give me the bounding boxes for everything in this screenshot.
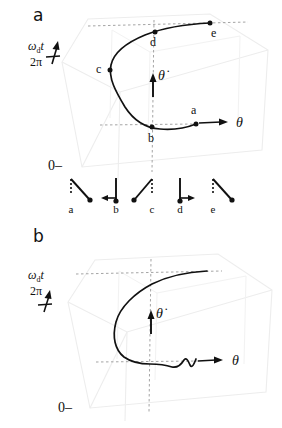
data-point-d (153, 30, 158, 35)
gridline-top-horizontal (88, 22, 248, 26)
theta-axis-arrow-a (199, 119, 228, 126)
thetadot-axis-label-a: θ̇ (158, 68, 169, 83)
point-label-a: a (191, 104, 196, 116)
point-label-b: b (148, 132, 154, 144)
figure-root: a ωdt 2π 0– (0, 0, 282, 428)
theta-axis-label-a: θ (236, 115, 243, 130)
panel-b-graphics: θ θ̇ (0, 214, 282, 428)
point-label-d: d (150, 36, 156, 48)
thetadot-axis-arrow-b (148, 310, 155, 334)
time-axis-arrow-b (38, 290, 52, 312)
panel-a-box-outline (62, 14, 268, 180)
data-point-c (108, 68, 113, 73)
pendulum-icon-d (177, 178, 195, 204)
point-label-c: c (96, 63, 101, 75)
theta-axis-arrow-b (198, 357, 223, 364)
thetadot-axis-arrow-a (150, 73, 157, 97)
gridline-mid-horizontal-b (96, 361, 200, 362)
point-label-e: e (211, 27, 216, 39)
pendulum-icon-e (213, 179, 235, 203)
pendulum-icon-row: a b c d e (0, 174, 282, 214)
pendulum-icons-graphics (0, 174, 282, 214)
panel-b-gridlines (76, 259, 222, 412)
gridline-vertical-b (149, 259, 151, 412)
time-axis-arrow-a (46, 41, 60, 64)
pendulum-icon-b (101, 178, 119, 204)
data-point-a (194, 122, 199, 127)
panel-b: b ωdt 2π 0– (0, 214, 282, 428)
panel-b-box-outline (68, 254, 272, 421)
pendulum-icon-a (71, 179, 93, 203)
data-point-e (208, 21, 213, 26)
pendulum-icon-c (131, 179, 152, 203)
data-point-b (150, 125, 155, 130)
theta-axis-label-b: θ (232, 353, 239, 368)
thetadot-axis-label-b: θ̇ (156, 306, 167, 321)
